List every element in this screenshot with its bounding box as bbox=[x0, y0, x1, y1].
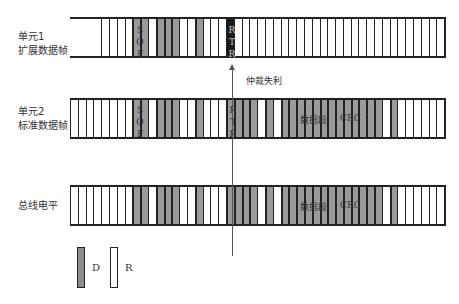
recessive-bit bbox=[358, 19, 366, 56]
recessive-bit bbox=[70, 187, 78, 224]
recessive-bit bbox=[187, 19, 195, 56]
unit2-label-line2: 标准数据帧 bbox=[18, 119, 68, 133]
frame-end bbox=[444, 187, 446, 224]
recessive-bit bbox=[436, 187, 444, 224]
dominant-bit bbox=[195, 19, 203, 56]
dominant-bit bbox=[164, 100, 172, 137]
arrow-up-icon bbox=[229, 64, 235, 70]
dominant-bit bbox=[195, 187, 203, 224]
recessive-bit bbox=[218, 19, 226, 56]
recessive-bit bbox=[203, 19, 211, 56]
dominant-bit bbox=[132, 187, 140, 224]
recessive-bit bbox=[429, 187, 437, 224]
recessive-bit bbox=[179, 187, 187, 224]
unit2-label-line1: 单元2 bbox=[18, 105, 68, 119]
dominant-bit bbox=[140, 187, 148, 224]
recessive-bit bbox=[187, 187, 195, 224]
recessive-bit bbox=[327, 19, 335, 56]
recessive-bit bbox=[296, 19, 304, 56]
recessive-bit bbox=[304, 19, 312, 56]
recessive-bit bbox=[210, 187, 218, 224]
recessive-bit bbox=[320, 19, 328, 56]
dominant-bit bbox=[288, 100, 296, 137]
recessive-bit bbox=[148, 19, 156, 56]
bus-level-frame bbox=[70, 185, 446, 226]
dominant-bit bbox=[265, 100, 273, 137]
recessive-bit bbox=[397, 100, 405, 137]
recessive-bit bbox=[210, 19, 218, 56]
inactive-bit bbox=[86, 19, 94, 56]
recessive-bit bbox=[436, 19, 444, 56]
recessive-bit bbox=[397, 187, 405, 224]
legend-dominant-label: D bbox=[92, 262, 100, 273]
recessive-bit bbox=[218, 100, 226, 137]
dominant-bit bbox=[242, 100, 250, 137]
recessive-bit bbox=[109, 100, 117, 137]
dominant-bit bbox=[156, 187, 164, 224]
dominant-bit bbox=[195, 100, 203, 137]
recessive-bit bbox=[405, 187, 413, 224]
dominant-bit bbox=[265, 187, 273, 224]
recessive-bit bbox=[413, 187, 421, 224]
dominant-bit bbox=[327, 187, 335, 224]
recessive-bit bbox=[421, 19, 429, 56]
unit2-rtr-label: RTR bbox=[228, 104, 238, 140]
row-label-bus: 总线电平 bbox=[18, 199, 58, 213]
recessive-bit bbox=[288, 19, 296, 56]
recessive-bit bbox=[203, 187, 211, 224]
legend-recessive-swatch bbox=[110, 247, 118, 288]
recessive-bit bbox=[101, 187, 109, 224]
dominant-bit bbox=[281, 187, 289, 224]
recessive-bit bbox=[249, 19, 257, 56]
dominant-bit bbox=[171, 100, 179, 137]
recessive-bit bbox=[109, 19, 117, 56]
recessive-bit bbox=[413, 100, 421, 137]
unit2-sof-label: SOF bbox=[135, 104, 145, 140]
dominant-bit bbox=[281, 100, 289, 137]
dominant-bit bbox=[390, 100, 398, 137]
recessive-bit bbox=[109, 187, 117, 224]
recessive-bit bbox=[257, 187, 265, 224]
unit1-extended-frame bbox=[70, 17, 446, 58]
inactive-bit bbox=[78, 19, 86, 56]
recessive-bit bbox=[273, 19, 281, 56]
recessive-bit bbox=[187, 100, 195, 137]
recessive-bit bbox=[125, 100, 133, 137]
recessive-bit bbox=[78, 187, 86, 224]
recessive-bit bbox=[335, 19, 343, 56]
recessive-bit bbox=[179, 100, 187, 137]
recessive-bit bbox=[281, 19, 289, 56]
recessive-bit bbox=[70, 100, 78, 137]
recessive-bit bbox=[413, 19, 421, 56]
bus-label: 总线电平 bbox=[18, 199, 58, 213]
recessive-bit bbox=[265, 19, 273, 56]
inactive-bit bbox=[70, 19, 78, 56]
frame-end bbox=[444, 100, 446, 137]
recessive-bit bbox=[101, 100, 109, 137]
recessive-bit bbox=[397, 19, 405, 56]
dominant-bit bbox=[366, 100, 374, 137]
arbitration-lost-label: 仲裁失利 bbox=[246, 74, 282, 87]
dominant-bit bbox=[171, 187, 179, 224]
arbitration-line bbox=[232, 66, 233, 256]
unit1-rtr-label: RTR bbox=[227, 24, 237, 60]
recessive-bit bbox=[179, 19, 187, 56]
inactive-bit bbox=[93, 19, 101, 56]
legend-dominant-swatch bbox=[77, 247, 85, 288]
dominant-bit bbox=[156, 19, 164, 56]
recessive-bit bbox=[382, 100, 390, 137]
dominant-bit bbox=[288, 187, 296, 224]
recessive-bit bbox=[273, 100, 281, 137]
recessive-bit bbox=[429, 100, 437, 137]
recessive-bit bbox=[382, 19, 390, 56]
dominant-bit bbox=[242, 187, 250, 224]
recessive-bit bbox=[436, 100, 444, 137]
recessive-bit bbox=[210, 100, 218, 137]
dominant-bit bbox=[171, 19, 179, 56]
recessive-bit bbox=[390, 19, 398, 56]
recessive-bit bbox=[218, 187, 226, 224]
recessive-bit bbox=[421, 100, 429, 137]
recessive-bit bbox=[257, 100, 265, 137]
dominant-bit bbox=[374, 100, 382, 137]
recessive-bit bbox=[125, 187, 133, 224]
